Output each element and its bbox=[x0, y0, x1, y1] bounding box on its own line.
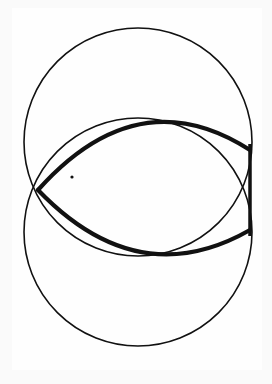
fish-diagram bbox=[0, 0, 272, 384]
figure-canvas: Vesica piscis (ichthys) construction bbox=[0, 0, 272, 384]
upper-circle bbox=[24, 28, 252, 256]
lower-circle bbox=[24, 118, 252, 346]
fish-body-top-arc bbox=[38, 122, 250, 190]
fish-eye-dot bbox=[70, 175, 73, 178]
